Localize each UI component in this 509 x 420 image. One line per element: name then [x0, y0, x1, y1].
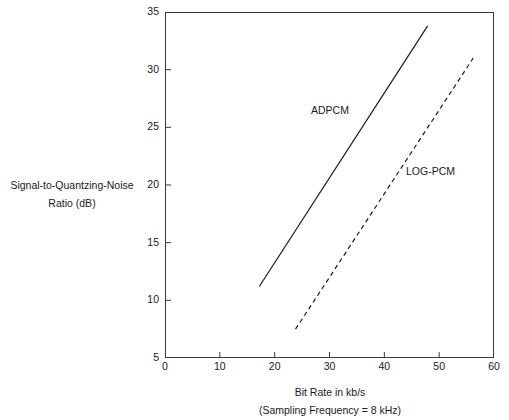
plot-area — [165, 12, 494, 358]
x-tick-label: 0 — [145, 361, 185, 372]
y-axis-title-line-1: Signal-to-Quantzing-Noise — [2, 176, 142, 194]
y-tick-label: 20 — [139, 179, 159, 190]
x-axis-title: Bit Rate in kb/s (Sampling Frequency = 8… — [180, 383, 480, 419]
y-axis-title: Signal-to-Quantzing-Noise Ratio (dB) — [2, 176, 142, 212]
series-label-adpcm: ADPCM — [311, 104, 349, 116]
x-tick-label: 60 — [474, 361, 509, 372]
y-tick-label: 15 — [139, 237, 159, 248]
series-lines — [259, 26, 473, 329]
y-tick-label: 30 — [139, 64, 159, 75]
x-tick-label: 30 — [310, 361, 350, 372]
x-tick-label: 10 — [200, 361, 240, 372]
y-tick-label: 10 — [139, 294, 159, 305]
x-axis-title-line-2: (Sampling Frequency = 8 kHz) — [180, 401, 480, 419]
y-tick-label: 25 — [139, 121, 159, 132]
series-line-log-pcm — [296, 58, 474, 329]
series-label-logpcm: LOG-PCM — [406, 165, 455, 177]
x-tick-label: 50 — [419, 361, 459, 372]
data-series-layer — [165, 12, 494, 358]
y-tick-label: 35 — [139, 6, 159, 17]
series-line-adpcm — [259, 26, 427, 287]
x-tick-label: 40 — [364, 361, 404, 372]
x-tick-label: 20 — [255, 361, 295, 372]
y-axis-title-line-2: Ratio (dB) — [2, 194, 142, 212]
x-axis-title-line-1: Bit Rate in kb/s — [180, 383, 480, 401]
chart-figure: 5101520253035 0102030405060 ADPCM LOG-PC… — [0, 0, 509, 420]
